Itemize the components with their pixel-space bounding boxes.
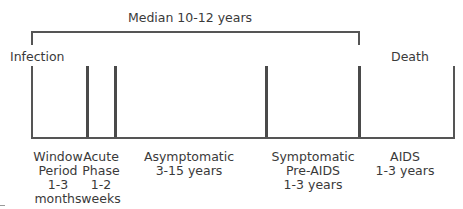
median-bracket-top: [31, 31, 360, 33]
phase-acute-line-1: Acute: [81, 150, 120, 164]
phase-acute: Acute Phase 1-2 weeks: [81, 150, 120, 206]
median-bracket-right: [358, 31, 360, 45]
acute-end-marker: [114, 66, 117, 139]
median-bracket-left: [31, 31, 33, 45]
window-end-marker: [86, 66, 89, 139]
phase-aids-line-1: AIDS: [376, 150, 435, 164]
timeline-baseline: [31, 137, 455, 139]
phase-pre-aids-line-3: 1-3 years: [271, 178, 354, 192]
corner-mark: [0, 205, 5, 206]
phase-window-line-3: 1-3: [33, 178, 82, 192]
phase-asymptomatic: Asymptomatic 3-15 years: [144, 150, 234, 178]
infection-marker: [31, 66, 33, 139]
phase-window-period: Window Period 1-3 months: [33, 150, 82, 206]
phase-pre-aids: Symptomatic Pre-AIDS 1-3 years: [271, 150, 354, 192]
phase-acute-line-4: weeks: [81, 192, 120, 206]
phase-acute-line-3: 1-2: [81, 178, 120, 192]
infection-label: Infection: [10, 50, 65, 64]
phase-asymptomatic-line-1: Asymptomatic: [144, 150, 234, 164]
phase-window-line-1: Window: [33, 150, 82, 164]
death-marker: [453, 66, 455, 139]
death-label: Death: [391, 50, 429, 64]
phase-acute-line-2: Phase: [81, 164, 120, 178]
phase-pre-aids-line-1: Symptomatic: [271, 150, 354, 164]
pre-aids-end-marker: [358, 66, 361, 139]
phase-aids: AIDS 1-3 years: [376, 150, 435, 178]
phase-asymptomatic-line-2: 3-15 years: [144, 164, 234, 178]
phase-aids-line-2: 1-3 years: [376, 164, 435, 178]
phase-pre-aids-line-2: Pre-AIDS: [271, 164, 354, 178]
phase-window-line-4: months: [33, 192, 82, 206]
median-duration-label: Median 10-12 years: [128, 11, 252, 25]
phase-window-line-2: Period: [33, 164, 82, 178]
asymptomatic-end-marker: [265, 66, 268, 139]
